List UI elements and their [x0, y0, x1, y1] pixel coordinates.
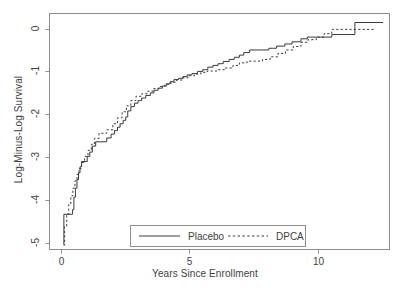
y-tick-label: -1 [29, 61, 40, 79]
series-line-dpca [64, 29, 374, 245]
legend-label-placebo: Placebo [188, 231, 225, 242]
x-axis-ticks [62, 250, 319, 254]
plot-canvas: Placebo DPCA [0, 0, 410, 292]
y-tick-label: -2 [29, 104, 40, 122]
y-tick-label: -5 [29, 233, 40, 251]
y-axis-ticks [46, 30, 50, 244]
y-axis-title: Log-Minus-Log Survival [13, 50, 24, 210]
x-tick-label: 5 [178, 256, 202, 267]
data-series-group [63, 23, 383, 246]
y-tick-label: -4 [29, 190, 40, 208]
x-tick-label: 10 [307, 256, 331, 267]
y-tick-label: 0 [29, 19, 40, 37]
y-axis-title-wrapper: Log-Minus-Log Survival [0, 0, 24, 260]
legend-label-dpca: DPCA [276, 231, 304, 242]
plot-frame [50, 14, 390, 250]
chart-figure: Placebo DPCA Log-Minus-Log Survival Year… [0, 0, 410, 292]
y-tick-label: -3 [29, 147, 40, 165]
x-axis-title: Years Since Enrollment [0, 268, 410, 279]
x-tick-label: 0 [50, 256, 74, 267]
series-line-placebo [63, 23, 383, 244]
